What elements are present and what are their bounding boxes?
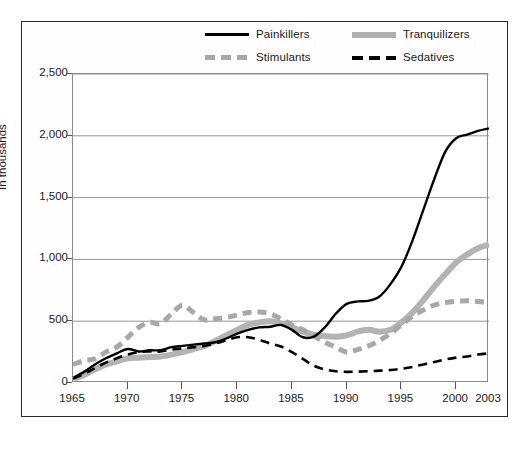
x-tick-label: 1990	[323, 392, 369, 404]
x-tick-label: 1970	[104, 392, 150, 404]
x-axis-ticks: 196519701975198019851990199520002003	[0, 0, 531, 449]
x-tick-mark	[346, 382, 347, 389]
figure-container: Painkillers Tranquilizers Stimulants Sed…	[0, 0, 531, 449]
x-tick-mark	[400, 382, 401, 389]
x-tick-label: 1965	[49, 392, 95, 404]
x-tick-label: 2003	[465, 392, 511, 404]
x-tick-label: 1985	[268, 392, 314, 404]
x-tick-mark	[181, 382, 182, 389]
x-tick-mark	[455, 382, 456, 389]
x-tick-mark	[236, 382, 237, 389]
x-tick-mark	[291, 382, 292, 389]
x-tick-label: 1995	[377, 392, 423, 404]
x-tick-label: 1980	[213, 392, 259, 404]
x-tick-mark	[127, 382, 128, 389]
x-tick-label: 1975	[158, 392, 204, 404]
